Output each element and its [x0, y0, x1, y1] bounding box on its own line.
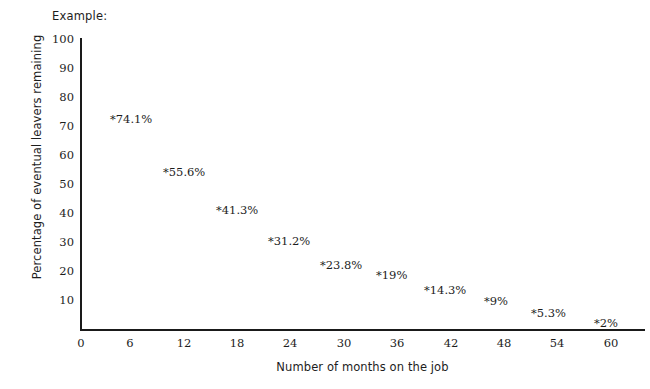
y-tick-label: 20: [44, 264, 74, 278]
y-tick-label: 40: [44, 206, 74, 220]
chart-page: Example: 100908070605040302010 061218243…: [0, 0, 650, 389]
x-tick-label: 30: [337, 336, 352, 350]
x-tick-label: 0: [77, 336, 84, 350]
x-axis-title: Number of months on the job: [80, 360, 645, 374]
data-point-label: *55.6%: [163, 167, 205, 179]
y-tick-label: 80: [44, 90, 74, 104]
data-point-label: *19%: [376, 270, 407, 282]
x-tick-label: 36: [390, 336, 405, 350]
x-tick-label: 60: [604, 336, 619, 350]
y-tick-label: 30: [44, 235, 74, 249]
data-point-label: *31.2%: [268, 236, 310, 248]
x-tick-label: 6: [126, 336, 133, 350]
y-tick-label: 60: [44, 148, 74, 162]
data-point-label: *74.1%: [110, 114, 152, 126]
data-point-label: *23.8%: [320, 260, 362, 272]
x-tick-label: 12: [177, 336, 192, 350]
x-axis-line: [80, 329, 645, 331]
x-tick-label: 42: [444, 336, 459, 350]
x-tick-label: 24: [283, 336, 298, 350]
data-point-label: *41.3%: [216, 205, 258, 217]
x-axis-tick-labels: 06121824303642485460: [0, 336, 650, 356]
x-tick-label: 48: [497, 336, 512, 350]
y-tick-label: 70: [44, 119, 74, 133]
y-tick-label: 100: [44, 32, 74, 46]
data-point-label: *9%: [484, 296, 508, 308]
x-tick-label: 54: [550, 336, 565, 350]
data-point-label: *5.3%: [531, 308, 566, 320]
y-tick-label: 10: [44, 293, 74, 307]
data-point-label: *2%: [594, 318, 618, 330]
x-tick-label: 18: [230, 336, 245, 350]
y-axis-title: Percentage of eventual leavers remaining: [30, 2, 48, 312]
plot-area: 100908070605040302010 061218243036424854…: [0, 0, 650, 389]
data-point-label: *14.3%: [424, 285, 466, 297]
y-tick-label: 50: [44, 177, 74, 191]
y-tick-label: 90: [44, 61, 74, 75]
y-axis-line: [80, 38, 82, 331]
